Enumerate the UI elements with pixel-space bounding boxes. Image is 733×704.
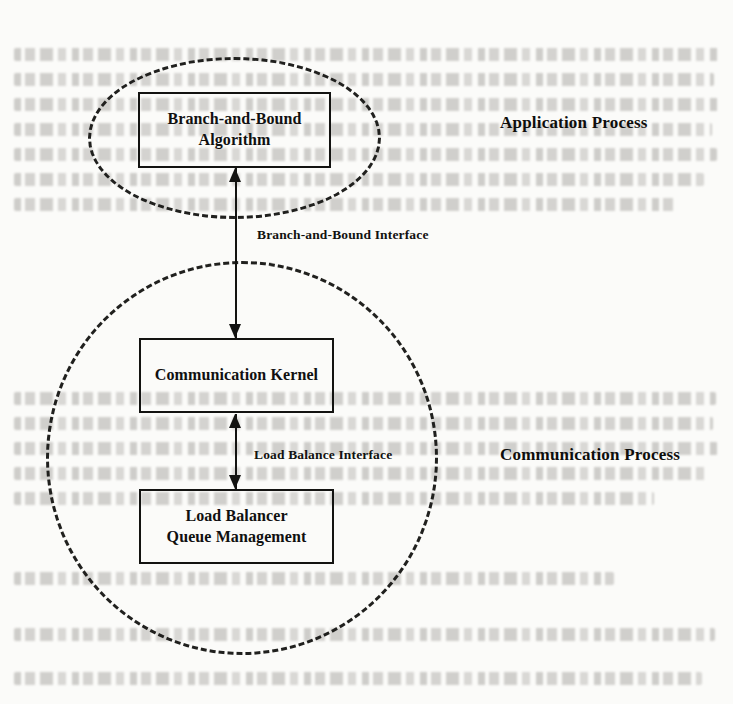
figure-page: Branch-and-Bound Algorithm Communication… bbox=[0, 0, 733, 704]
box-label-line-1: Branch-and-Bound bbox=[167, 109, 301, 130]
connector-branch-and-bound-to-communication-kernel bbox=[235, 168, 237, 338]
box-branch-and-bound-algorithm: Branch-and-Bound Algorithm bbox=[138, 92, 331, 168]
label-branch-and-bound-interface: Branch-and-Bound Interface bbox=[257, 227, 429, 243]
box-label-line-2: Queue Management bbox=[167, 527, 307, 548]
arrowhead-down-icon bbox=[229, 324, 241, 338]
box-label-line-1: Communication Kernel bbox=[155, 365, 318, 386]
box-label-line-2: Algorithm bbox=[198, 130, 270, 151]
label-communication-process: Communication Process bbox=[500, 445, 680, 465]
box-load-balancer-queue-management: Load Balancer Queue Management bbox=[139, 489, 334, 564]
arrowhead-down-icon bbox=[229, 475, 241, 489]
arrowhead-up-icon bbox=[229, 414, 241, 428]
arrowhead-up-icon bbox=[229, 168, 241, 182]
label-application-process: Application Process bbox=[500, 113, 648, 133]
box-label-line-1: Load Balancer bbox=[185, 506, 287, 527]
box-communication-kernel: Communication Kernel bbox=[139, 338, 334, 413]
label-load-balance-interface: Load Balance Interface bbox=[254, 447, 392, 463]
